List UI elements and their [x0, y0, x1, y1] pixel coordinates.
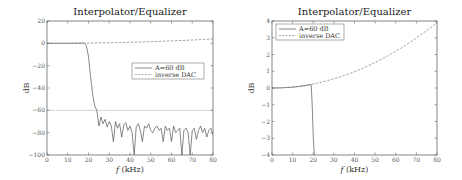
x-tick-label: 20: [309, 156, 317, 163]
legend-inverse-dac-label: inverse DAC: [299, 32, 340, 40]
x-tick-label: 30: [105, 156, 113, 163]
y-tick-label: 3: [266, 34, 270, 41]
y-tick-label: 0: [41, 39, 45, 46]
x-axis-label: f (kHz): [340, 165, 369, 174]
y-tick-label: 0: [266, 84, 270, 91]
x-tick-label: 40: [351, 156, 359, 163]
x-tick-label: 0: [45, 156, 49, 163]
y-tick-label: 1: [266, 67, 270, 74]
x-tick-label: 60: [392, 156, 400, 163]
chart-title: Interpolator/Equalizer: [298, 6, 412, 17]
y-tick-label: −100: [29, 151, 46, 158]
y-tick-label: 4: [266, 17, 270, 24]
y-tick-label: −1: [261, 101, 270, 108]
x-tick-label: 80: [433, 156, 441, 163]
x-tick-label: 60: [168, 156, 176, 163]
y-tick-label: −40: [32, 84, 45, 91]
chart-left-svg: Interpolator/Equalizer010203040506070802…: [0, 0, 231, 180]
x-tick-label: 10: [64, 156, 72, 163]
y-tick-label: −2: [261, 118, 270, 125]
y-tick-label: −20: [32, 62, 45, 69]
y-axis-label: dB: [22, 82, 31, 93]
y-tick-label: −3: [261, 134, 270, 141]
x-tick-label: 50: [147, 156, 155, 163]
y-tick-label: 20: [37, 17, 45, 24]
x-tick-label: 70: [188, 156, 196, 163]
chart-right-passband-detail: Interpolator/Equalizer010203040506070804…: [231, 0, 462, 180]
y-tick-label: −60: [32, 106, 45, 113]
x-tick-label: 70: [413, 156, 421, 163]
x-tick-label: 0: [270, 156, 274, 163]
series-a60db-line: [47, 43, 213, 155]
x-tick-label: 10: [289, 156, 297, 163]
x-axis-label: f (kHz): [115, 165, 144, 174]
x-tick-label: 20: [85, 156, 93, 163]
y-axis-label: dB: [247, 82, 256, 93]
x-tick-label: 30: [330, 156, 338, 163]
x-tick-label: 50: [371, 156, 379, 163]
chart-left-full-response: Interpolator/Equalizer010203040506070802…: [0, 0, 231, 180]
series-a60db-line: [272, 85, 314, 155]
chart-right-svg: Interpolator/Equalizer010203040506070804…: [231, 0, 462, 180]
series-inverse-dac-line: [47, 39, 213, 43]
y-tick-label: 2: [266, 51, 270, 58]
legend-inverse-dac-label: inverse DAC: [155, 71, 196, 79]
x-tick-label: 40: [126, 156, 134, 163]
y-tick-label: −80: [32, 129, 45, 136]
chart-title: Interpolator/Equalizer: [73, 6, 187, 17]
x-tick-label: 80: [209, 156, 217, 163]
y-tick-label: −4: [261, 151, 270, 158]
